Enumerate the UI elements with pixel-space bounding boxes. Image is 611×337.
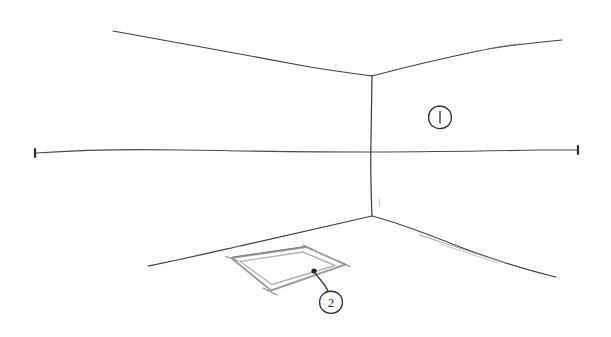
- sketch-canvas: 1 2: [0, 0, 611, 337]
- callout-2-anchor-dot: [311, 268, 316, 273]
- stray-pencil-tick: [379, 199, 380, 206]
- paper-background: [0, 0, 611, 337]
- callout-2-label: 2: [328, 295, 335, 310]
- room-perspective-sketch: 1 2: [0, 0, 611, 337]
